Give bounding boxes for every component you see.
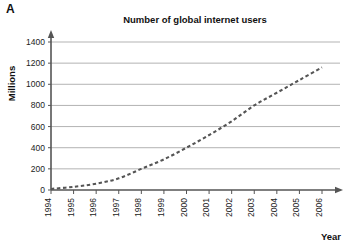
y-tick-label: 0	[40, 185, 45, 195]
x-tick-label: 2002	[224, 198, 234, 217]
x-axis-arrowhead	[335, 187, 343, 193]
y-tick-label: 800	[31, 100, 45, 110]
y-axis-ticks: 0200400600800100012001400	[26, 37, 51, 195]
x-tick-label: 2001	[201, 198, 211, 217]
data-series-line	[51, 67, 322, 189]
x-tick-label: 2005	[291, 198, 301, 217]
y-tick-label: 1200	[26, 58, 45, 68]
chart-figure: A Number of global internet users Millio…	[0, 0, 347, 245]
x-tick-label: 1994	[43, 198, 53, 217]
y-tick-label: 600	[31, 122, 45, 132]
plot-area: 0200400600800100012001400 19941995199619…	[0, 0, 347, 245]
gridlines	[51, 42, 340, 169]
x-tick-label: 1996	[88, 198, 98, 217]
x-tick-label: 1995	[66, 198, 76, 217]
x-axis-ticks: 1994199519961997199819992000200120022003…	[43, 190, 324, 217]
x-tick-label: 1998	[133, 198, 143, 217]
y-tick-label: 1000	[26, 79, 45, 89]
series-internet-users	[51, 67, 322, 189]
x-tick-label: 2003	[246, 198, 256, 217]
x-tick-label: 2006	[314, 198, 324, 217]
y-axis-arrowhead	[48, 30, 54, 38]
y-tick-label: 1400	[26, 37, 45, 47]
y-tick-label: 400	[31, 143, 45, 153]
y-tick-label: 200	[31, 164, 45, 174]
x-tick-label: 1999	[156, 198, 166, 217]
x-tick-label: 2000	[179, 198, 189, 217]
x-tick-label: 2004	[269, 198, 279, 217]
x-tick-label: 1997	[111, 198, 121, 217]
